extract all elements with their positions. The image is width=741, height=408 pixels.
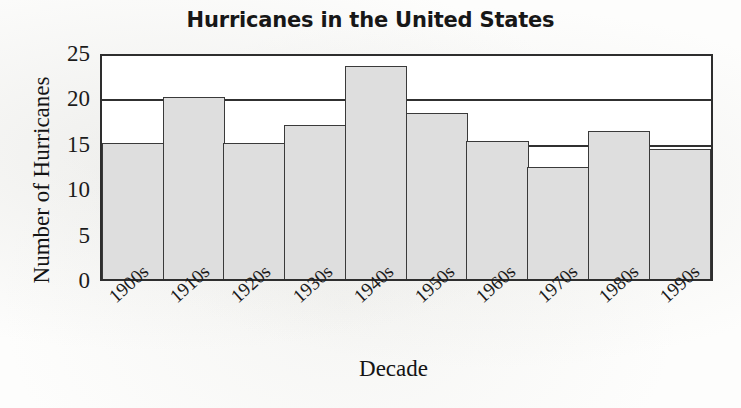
x-tick: 1980s [590, 283, 651, 349]
bar-series [102, 56, 711, 279]
y-axis-tick-labels: 0510152025 [46, 54, 94, 281]
bar-1950s [406, 113, 468, 279]
bar-1940s [345, 66, 407, 279]
bar-1900s [102, 143, 164, 279]
x-tick: 1930s [284, 283, 345, 349]
x-tick: 1960s [468, 283, 529, 349]
bar-1960s [466, 141, 528, 279]
x-tick: 1910s [161, 283, 222, 349]
bar-1970s [527, 167, 589, 279]
chart-title: Hurricanes in the United States [0, 8, 741, 32]
plot-area [100, 54, 713, 281]
y-tick-label: 10 [67, 177, 90, 203]
bar-1910s [163, 97, 225, 279]
bar-1980s [588, 131, 650, 279]
chart-page: Hurricanes in the United States Number o… [0, 0, 741, 408]
x-tick: 1970s [529, 283, 590, 349]
x-tick: 1900s [100, 283, 161, 349]
y-tick-label: 15 [67, 132, 90, 158]
bar-1920s [223, 143, 285, 279]
x-tick: 1990s [652, 283, 713, 349]
x-tick: 1950s [406, 283, 467, 349]
x-axis-title: Decade [0, 356, 741, 382]
bar-1930s [284, 125, 346, 279]
y-tick-label: 0 [79, 268, 91, 294]
x-axis-tick-labels: 1900s1910s1920s1930s1940s1950s1960s1970s… [100, 283, 713, 349]
y-tick-label: 25 [67, 41, 90, 67]
x-tick: 1920s [223, 283, 284, 349]
y-tick-label: 5 [79, 223, 91, 249]
x-tick: 1940s [345, 283, 406, 349]
bar-1990s [649, 149, 711, 279]
y-tick-label: 20 [67, 86, 90, 112]
